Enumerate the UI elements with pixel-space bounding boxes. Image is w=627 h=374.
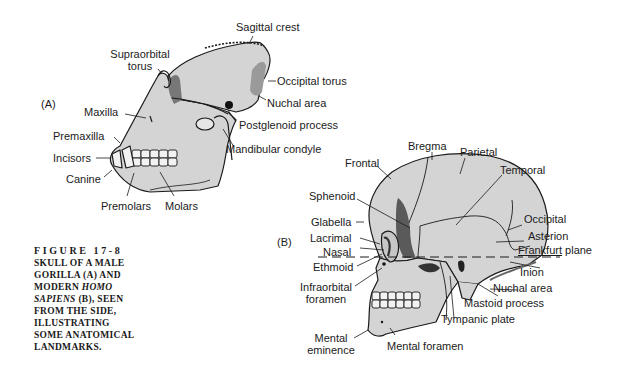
label-nuchal-area-b: Nuchal area — [493, 282, 552, 294]
label-premaxilla: Premaxilla — [53, 130, 104, 142]
label-glabella: Glabella — [311, 216, 351, 228]
figure-caption: FIGURE 17-8 SKULL OF A MALE GORILLA (A) … — [34, 245, 154, 353]
label-inion: Inion — [520, 266, 544, 278]
label-frankfurt-plane: Frankfurt plane — [518, 244, 592, 256]
label-temporal: Temporal — [500, 164, 545, 176]
label-occipital: Occipital — [524, 213, 566, 225]
label-asterion: Asterion — [528, 230, 568, 242]
label-tympanic-plate: Tympanic plate — [441, 313, 515, 325]
label-mental-eminence: Mental eminence — [306, 332, 356, 356]
label-molars: Molars — [165, 200, 198, 212]
label-postglenoid-process: Postglenoid process — [239, 119, 338, 131]
label-sagittal-crest: Sagittal crest — [236, 21, 300, 33]
label-nasal: Nasal — [323, 246, 351, 258]
label-ethmoid: Ethmoid — [313, 261, 353, 273]
label-mental-foramen: Mental foramen — [387, 340, 463, 352]
figure-number: FIGURE 17-8 — [34, 245, 154, 257]
label-sphenoid: Sphenoid — [309, 190, 356, 202]
label-maxilla: Maxilla — [84, 106, 118, 118]
label-frontal: Frontal — [345, 157, 379, 169]
label-occipital-torus: Occipital torus — [277, 75, 347, 87]
label-incisors: Incisors — [53, 152, 91, 164]
panel-b-tag: (B) — [277, 236, 292, 248]
label-canine: Canine — [66, 173, 101, 185]
label-mandibular-condyle: Mandibular condyle — [226, 143, 321, 155]
label-bregma: Bregma — [408, 140, 447, 152]
label-premolars: Premolars — [101, 200, 151, 212]
label-lacrimal: Lacrimal — [310, 232, 352, 244]
label-infraorbital-foramen: Infraorbital foramen — [295, 281, 357, 305]
panel-a-tag: (A) — [41, 98, 56, 110]
label-supraorbital-torus: Supraorbital torus — [109, 48, 171, 72]
label-mastoid-process: Mastoid process — [464, 297, 544, 309]
label-parietal: Parietal — [460, 146, 497, 158]
label-nuchal-area-a: Nuchal area — [267, 97, 326, 109]
